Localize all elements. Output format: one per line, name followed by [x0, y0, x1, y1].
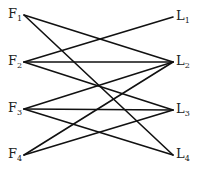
node-label-f2: F2: [8, 53, 22, 70]
node-label-l2: L2: [176, 53, 190, 70]
edges: [24, 15, 173, 155]
node-label-l3: L3: [176, 101, 190, 118]
node-label-l4: L4: [176, 146, 190, 163]
node-label-f3: F3: [8, 100, 22, 117]
node-label-f4: F4: [8, 146, 22, 163]
node-label-l1: L1: [176, 8, 190, 25]
bipartite-graph: F1F2F3F4L1L2L3L4: [0, 0, 201, 170]
node-label-f1: F1: [8, 6, 22, 23]
